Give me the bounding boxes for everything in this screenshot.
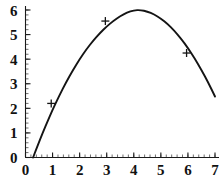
x-tick-label: 7: [211, 162, 219, 178]
y-tick-label: 4: [10, 52, 18, 68]
x-tick-label: 5: [157, 162, 165, 178]
y-axis-tick-labels: 0123456: [10, 3, 18, 167]
data-marker-point-2: [101, 17, 109, 25]
x-tick-label: 4: [130, 162, 138, 178]
x-tick-label: 3: [103, 162, 111, 178]
x-axis-tick-labels: 01234567: [22, 162, 220, 178]
data-markers: [47, 17, 190, 107]
y-tick-label: 1: [10, 125, 18, 141]
x-tick-label: 6: [184, 162, 192, 178]
chart-plot-area: 01234567 0123456: [0, 0, 222, 178]
y-tick-label: 6: [10, 3, 18, 19]
x-tick-label: 1: [49, 162, 57, 178]
x-tick-label: 0: [22, 162, 30, 178]
y-tick-label: 3: [10, 76, 18, 92]
y-tick-label: 0: [10, 150, 18, 166]
x-tick-label: 2: [76, 162, 84, 178]
y-tick-label: 5: [10, 27, 18, 43]
x-axis-major-ticks: [26, 153, 216, 158]
chart-figure: 01234567 0123456: [0, 0, 222, 178]
data-curve: [33, 10, 215, 157]
y-axis-major-ticks: [26, 10, 31, 158]
y-tick-label: 2: [10, 101, 18, 117]
